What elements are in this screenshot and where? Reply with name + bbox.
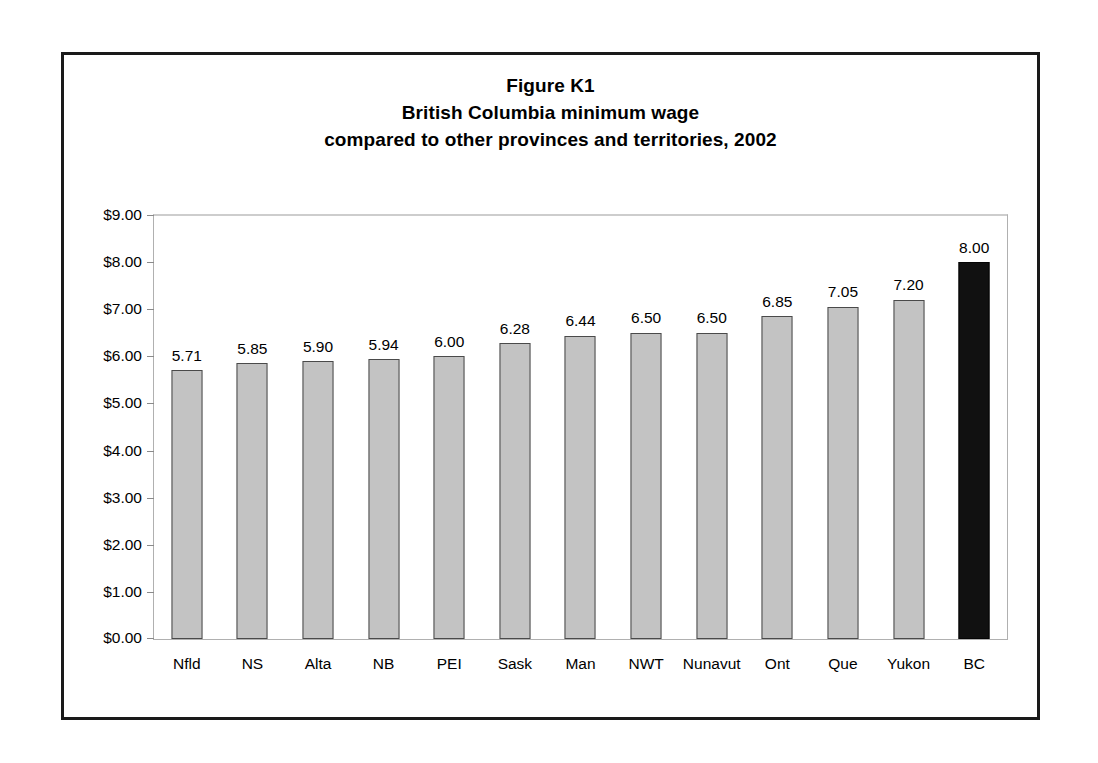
bar-value-label: 5.90 bbox=[303, 339, 333, 355]
bar-value-label: 5.94 bbox=[369, 337, 399, 353]
bar-nwt[interactable] bbox=[631, 333, 662, 639]
bar-value-label: 6.28 bbox=[500, 321, 530, 337]
bar-slot: 7.20Yukon bbox=[876, 215, 942, 639]
chart-title-line-1: Figure K1 bbox=[64, 73, 1037, 100]
bar-slot: 8.00BC bbox=[941, 215, 1007, 639]
y-axis-tick bbox=[147, 215, 154, 216]
bar-ns[interactable] bbox=[237, 363, 268, 639]
bar-value-label: 6.00 bbox=[434, 334, 464, 350]
bar-slot: 6.50Nunavut bbox=[679, 215, 745, 639]
bar-man[interactable] bbox=[565, 336, 596, 639]
bar-slot: 5.71Nfld bbox=[154, 215, 220, 639]
x-axis-label-man: Man bbox=[565, 656, 595, 672]
bar-ont[interactable] bbox=[762, 316, 793, 639]
y-axis-tick bbox=[147, 403, 154, 404]
y-axis-tick bbox=[147, 309, 154, 310]
bar-slot: 6.50NWT bbox=[613, 215, 679, 639]
y-axis-label: $7.00 bbox=[103, 300, 142, 318]
y-axis-tick bbox=[147, 451, 154, 452]
bar-slot: 6.00PEI bbox=[416, 215, 482, 639]
bar-nfld[interactable] bbox=[171, 370, 202, 639]
x-axis-label-alta: Alta bbox=[305, 656, 332, 672]
x-axis-label-ont: Ont bbox=[765, 656, 790, 672]
y-axis-label: $3.00 bbox=[103, 489, 142, 507]
y-axis-label: $4.00 bbox=[103, 442, 142, 460]
bar-nb[interactable] bbox=[368, 359, 399, 639]
bar-value-label: 7.20 bbox=[893, 277, 923, 293]
bar-slot: 5.90Alta bbox=[285, 215, 351, 639]
y-axis-label: $5.00 bbox=[103, 394, 142, 412]
y-axis-tick bbox=[147, 498, 154, 499]
bar-slot: 5.94NB bbox=[351, 215, 417, 639]
y-axis-tick bbox=[147, 356, 154, 357]
bar-value-label: 6.50 bbox=[631, 310, 661, 326]
chart-title: Figure K1 British Columbia minimum wage … bbox=[64, 73, 1037, 154]
y-axis-label: $1.00 bbox=[103, 583, 142, 601]
x-axis-label-pei: PEI bbox=[437, 656, 462, 672]
x-axis-label-ns: NS bbox=[242, 656, 264, 672]
x-axis-label-nfld: Nfld bbox=[173, 656, 201, 672]
y-axis-label: $2.00 bbox=[103, 536, 142, 554]
x-axis-label-que: Que bbox=[828, 656, 857, 672]
y-axis-label: $8.00 bbox=[103, 253, 142, 271]
figure-frame: Figure K1 British Columbia minimum wage … bbox=[61, 52, 1040, 720]
x-axis-label-nb: NB bbox=[373, 656, 395, 672]
y-axis-tick bbox=[147, 638, 154, 639]
y-axis-label: $9.00 bbox=[103, 206, 142, 224]
x-axis-label-yukon: Yukon bbox=[887, 656, 930, 672]
bar-value-label: 6.50 bbox=[697, 310, 727, 326]
y-axis-label: $6.00 bbox=[103, 347, 142, 365]
bar-slot: 5.85NS bbox=[220, 215, 286, 639]
y-axis-tick bbox=[147, 545, 154, 546]
bar-slot: 6.85Ont bbox=[745, 215, 811, 639]
bar-value-label: 7.05 bbox=[828, 284, 858, 300]
bars-layer: 5.71Nfld5.85NS5.90Alta5.94NB6.00PEI6.28S… bbox=[154, 215, 1007, 639]
bar-value-label: 6.85 bbox=[762, 294, 792, 310]
bar-slot: 6.44Man bbox=[548, 215, 614, 639]
bar-value-label: 5.85 bbox=[237, 341, 267, 357]
bar-slot: 6.28Sask bbox=[482, 215, 548, 639]
bar-nunavut[interactable] bbox=[696, 333, 727, 639]
bar-que[interactable] bbox=[827, 307, 858, 639]
bar-pei[interactable] bbox=[434, 356, 465, 639]
chart-title-line-2: British Columbia minimum wage bbox=[64, 100, 1037, 127]
x-axis-label-bc: BC bbox=[963, 656, 985, 672]
bar-value-label: 5.71 bbox=[172, 348, 202, 364]
bar-value-label: 6.44 bbox=[565, 313, 595, 329]
chart-title-line-3: compared to other provinces and territor… bbox=[64, 127, 1037, 154]
plot-area: $9.00$8.00$7.00$6.00$5.00$4.00$3.00$2.00… bbox=[153, 214, 1008, 640]
bar-alta[interactable] bbox=[303, 361, 334, 639]
y-axis-label: $0.00 bbox=[103, 629, 142, 647]
bar-bc[interactable] bbox=[959, 262, 990, 639]
x-axis-label-nunavut: Nunavut bbox=[683, 656, 741, 672]
bar-slot: 7.05Que bbox=[810, 215, 876, 639]
y-axis-tick bbox=[147, 262, 154, 263]
x-axis-label-nwt: NWT bbox=[628, 656, 663, 672]
bar-sask[interactable] bbox=[499, 343, 530, 639]
bar-value-label: 8.00 bbox=[959, 240, 989, 256]
bar-yukon[interactable] bbox=[893, 300, 924, 639]
y-axis-tick bbox=[147, 592, 154, 593]
x-axis-label-sask: Sask bbox=[498, 656, 532, 672]
